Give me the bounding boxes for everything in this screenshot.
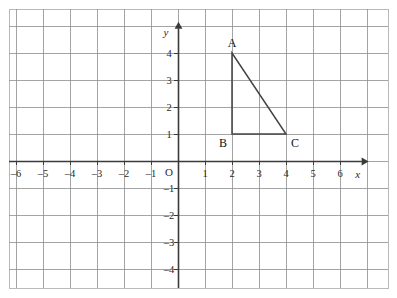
x-axis-tick-label: 4 (283, 168, 289, 179)
y-axis-tick-label: –4 (163, 264, 175, 275)
y-axis-tick-label: 1 (166, 129, 171, 140)
x-axis-tick-label: 5 (310, 168, 315, 179)
x-axis-tick-label: –1 (145, 168, 157, 179)
x-axis-tick-label: 6 (337, 168, 342, 179)
x-axis-label: x (354, 168, 360, 180)
coordinate-plane-svg: –6–5–4–3–2–11234564321–1–2–3–4OxyABC (0, 0, 397, 298)
y-axis-tick-label: –1 (163, 183, 175, 194)
x-axis-tick-label: 2 (229, 168, 234, 179)
x-axis-tick-label: 1 (202, 168, 207, 179)
plot-border (10, 10, 389, 289)
x-axis-tick-label: –4 (64, 168, 76, 179)
y-axis-label: y (163, 26, 169, 38)
y-axis-tick-label: 4 (166, 48, 172, 59)
vertex-label-a: A (228, 36, 237, 50)
y-axis-tick-label: 2 (166, 102, 171, 113)
x-axis-tick-label: –5 (37, 168, 49, 179)
origin-label: O (165, 166, 173, 178)
y-axis-tick-label: –3 (163, 237, 175, 248)
coordinate-plane-figure: –6–5–4–3–2–11234564321–1–2–3–4OxyABC (0, 0, 397, 298)
vertex-label-b: B (219, 136, 227, 150)
x-axis-tick-label: 3 (256, 168, 261, 179)
vertex-label-c: C (291, 136, 299, 150)
x-axis-tick-label: –3 (91, 168, 103, 179)
x-axis-tick-label: –2 (118, 168, 130, 179)
y-axis-tick-label: 3 (166, 75, 171, 86)
x-axis-tick-label: –6 (10, 168, 22, 179)
y-axis-tick-label: –2 (163, 210, 175, 221)
